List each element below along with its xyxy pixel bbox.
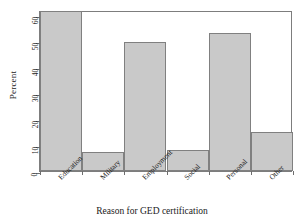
- x-tick-mark: [293, 171, 294, 175]
- y-tick-label: 50: [31, 43, 39, 51]
- bar-series: [40, 12, 291, 171]
- y-tick-label: 20: [31, 121, 39, 129]
- bar: [251, 132, 293, 171]
- y-axis-title: Percent: [8, 50, 18, 120]
- x-tick-mark: [40, 171, 41, 175]
- bar: [209, 33, 251, 171]
- y-tick-label: 60: [31, 17, 39, 25]
- x-tick-mark: [124, 171, 125, 175]
- plot-area: 0102030405060: [39, 11, 292, 172]
- y-tick-label: 30: [31, 95, 39, 103]
- y-tick-label: 40: [31, 69, 39, 77]
- bar: [40, 11, 82, 171]
- chart-figure: Percent 0102030405060 EducationMilitaryE…: [0, 0, 304, 223]
- x-tick-mark: [209, 171, 210, 175]
- y-tick-label: 0: [31, 173, 39, 177]
- x-tick-mark: [167, 171, 168, 175]
- bar: [124, 42, 166, 171]
- x-tick-mark: [251, 171, 252, 175]
- y-tick-label: 10: [31, 147, 39, 155]
- x-axis-title: Reason for GED certification: [0, 206, 304, 216]
- x-tick-mark: [82, 171, 83, 175]
